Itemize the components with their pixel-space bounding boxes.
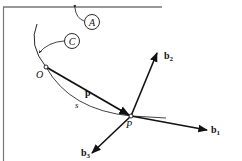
curve-frame-diagram: A C O P p s b1 b2 b3 <box>0 0 242 161</box>
label-b3: b3 <box>81 147 91 160</box>
vector-b1 <box>131 116 207 130</box>
label-c: C <box>69 36 76 47</box>
label-arc-s: s <box>75 100 79 110</box>
vector-b2 <box>131 53 157 116</box>
point-p <box>129 114 133 118</box>
label-o: O <box>36 69 43 80</box>
label-a: A <box>88 17 96 28</box>
label-vector-p: p <box>85 87 91 98</box>
label-b1: b1 <box>211 124 221 137</box>
curve-c <box>34 24 46 67</box>
frame <box>3 7 162 161</box>
label-c-callout: C <box>39 34 80 54</box>
label-b2: b2 <box>164 50 174 63</box>
point-o <box>44 65 48 69</box>
label-p: P <box>125 119 132 130</box>
label-a-callout: A <box>75 8 100 30</box>
